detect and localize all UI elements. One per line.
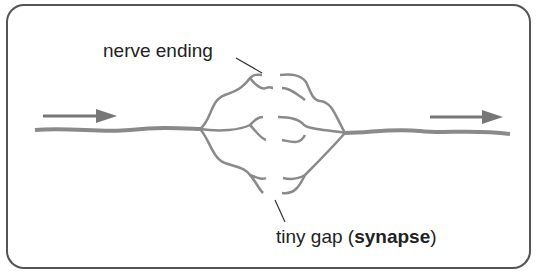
nerve-synapse-diagram — [0, 0, 539, 277]
synapse-term: synapse — [354, 226, 430, 247]
output-arrow-icon — [430, 110, 503, 124]
nerve-endings — [200, 75, 345, 194]
synapse-label-prefix: tiny gap ( — [276, 226, 354, 247]
synapse-label: tiny gap (synapse) — [276, 226, 437, 248]
synapse-label-suffix: ) — [430, 226, 436, 247]
synapse-leader-line — [275, 200, 285, 222]
nerve-ending-label: nerve ending — [103, 40, 213, 62]
nerve-ending-leader-line — [236, 58, 262, 73]
incoming-nerve-fiber — [35, 128, 200, 131]
outgoing-nerve-fiber — [345, 130, 510, 134]
input-arrow-icon — [43, 109, 117, 123]
